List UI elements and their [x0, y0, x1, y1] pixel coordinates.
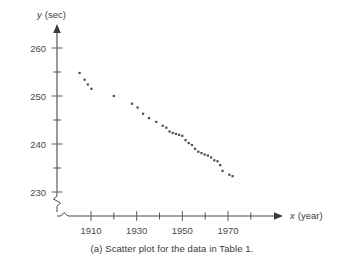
x-tick-label: 1930 [126, 225, 147, 236]
data-point [219, 164, 221, 166]
x-tick-label: 1950 [172, 225, 193, 236]
data-point [210, 156, 212, 158]
data-point [90, 88, 92, 90]
data-points-group [78, 72, 233, 177]
data-point [87, 83, 89, 85]
data-point [84, 79, 86, 81]
data-point [172, 132, 174, 134]
data-point [178, 134, 180, 136]
y-axis-arrow-icon [53, 24, 61, 33]
y-axis-tick-labels: 230240250260 [30, 43, 46, 198]
y-tick-label: 250 [30, 91, 46, 102]
data-point [213, 159, 215, 161]
data-point [204, 153, 206, 155]
x-axis-arrow-icon [274, 212, 283, 220]
x-axis-break-icon [57, 213, 68, 217]
plot-canvas: 230240250260 1910193019501970 y(sec) x(y… [0, 0, 344, 265]
data-point [216, 160, 218, 162]
data-point [162, 125, 164, 127]
data-point [194, 148, 196, 150]
scatter-plot-figure: 230240250260 1910193019501970 y(sec) x(y… [0, 0, 344, 265]
data-point [155, 121, 157, 123]
y-tick-label: 260 [30, 43, 46, 54]
y-tick-label: 240 [30, 139, 46, 150]
data-point [228, 174, 230, 176]
data-point [165, 127, 167, 129]
data-point [200, 152, 202, 154]
data-point [142, 113, 144, 115]
figure-caption: (a) Scatter plot for the data in Table 1… [0, 243, 344, 254]
y-axis-title: y(sec) [36, 9, 66, 20]
data-point [191, 144, 193, 146]
data-point [175, 133, 177, 135]
data-point [78, 72, 80, 74]
data-point [113, 95, 115, 97]
data-point [168, 130, 170, 132]
data-point [221, 170, 223, 172]
data-point [131, 103, 133, 105]
data-point [136, 106, 138, 108]
x-tick-label: 1970 [217, 225, 238, 236]
x-axis-tick-labels: 1910193019501970 [80, 225, 238, 236]
data-point [231, 175, 233, 177]
y-tick-label: 230 [30, 187, 46, 198]
axes-group [53, 24, 283, 220]
data-point [207, 154, 209, 156]
data-point [197, 151, 199, 153]
x-tick-label: 1910 [80, 225, 101, 236]
data-point [188, 142, 190, 144]
data-point [181, 135, 183, 137]
data-point [184, 139, 186, 141]
x-axis-title: x(year) [289, 210, 323, 221]
data-point [148, 117, 150, 119]
